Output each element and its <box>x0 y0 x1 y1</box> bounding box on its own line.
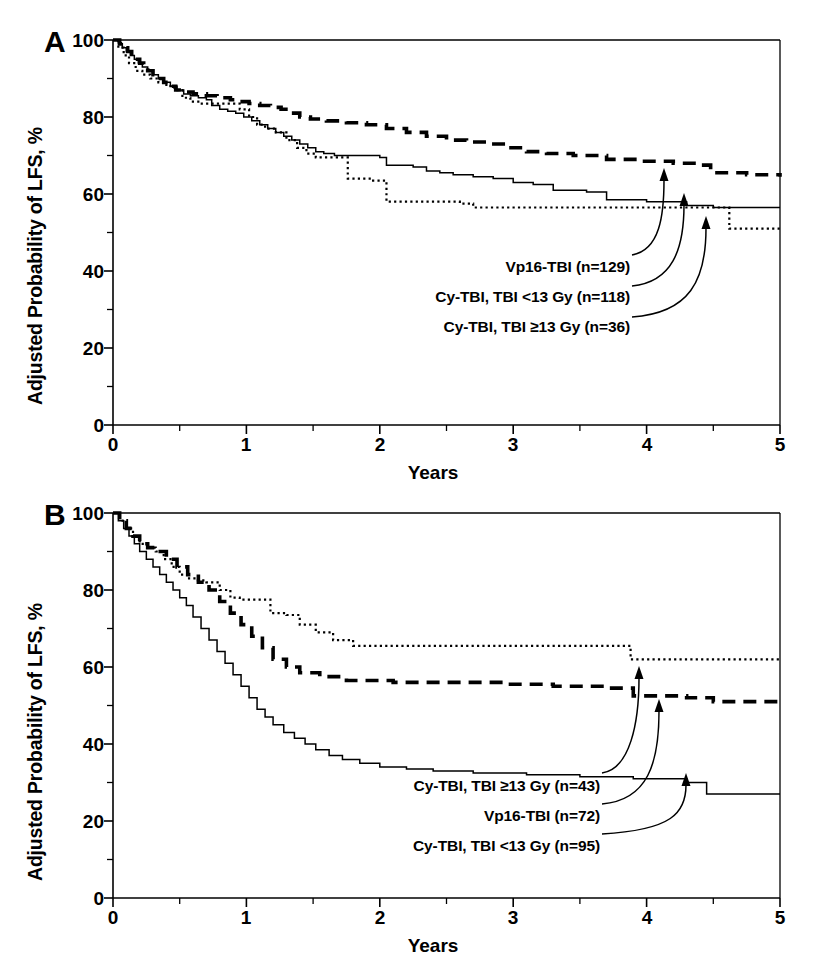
panel-b-arrow-cy-low <box>602 785 686 834</box>
curve-dotted <box>113 513 780 659</box>
panel-b-axes <box>113 513 780 898</box>
panel-b-y-minor-ticks <box>107 552 113 860</box>
panel-b-plot <box>0 473 825 966</box>
panel-a-x-minor-ticks <box>180 425 714 431</box>
panel-b-x-minor-ticks <box>180 898 714 904</box>
curve-dotted <box>113 40 780 229</box>
panel-a-curves <box>113 40 780 229</box>
panel-a-leader-arrows <box>632 168 711 317</box>
panel-b: B Adjusted Probability of LFS, % 0 20 40… <box>0 473 825 966</box>
panel-a: A Adjusted Probability of LFS, % 0 20 40… <box>0 0 825 490</box>
panel-a-axes <box>113 40 780 425</box>
panel-b-arrow-vp16 <box>602 711 659 804</box>
curve-dashed <box>113 40 780 177</box>
curve-solid <box>113 513 780 794</box>
curve-solid <box>113 40 780 207</box>
panel-a-y-minor-ticks <box>107 79 113 387</box>
curve-dashed <box>113 513 780 704</box>
figure-root: A Adjusted Probability of LFS, % 0 20 40… <box>0 0 825 966</box>
panel-a-arrow-cy-high <box>632 228 706 317</box>
panel-a-plot <box>0 0 825 490</box>
panel-a-arrow-cy-low <box>632 205 684 286</box>
panel-b-leader-arrows <box>602 666 691 834</box>
panel-b-curves <box>113 513 780 794</box>
panel-a-arrow-vp16 <box>632 180 664 255</box>
